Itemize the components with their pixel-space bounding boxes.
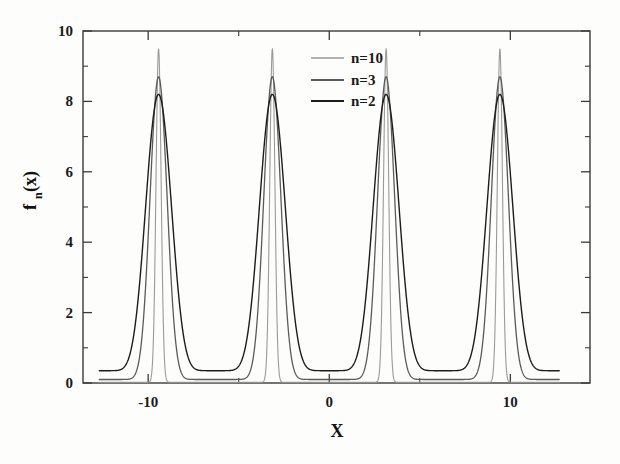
legend-label-n3: n=3 <box>351 72 375 88</box>
figure-container: -10010 0246810 X f n (x) n=10 n=3 n=2 <box>0 0 620 464</box>
y-tick-label: 6 <box>66 164 74 180</box>
y-axis-title-base: f <box>20 203 40 210</box>
y-axis-title-arg: (x) <box>20 171 41 192</box>
y-tick-label: 10 <box>58 23 73 39</box>
y-tick-label: 8 <box>66 93 74 109</box>
chart-canvas: -10010 0246810 X f n (x) n=10 n=3 n=2 <box>0 0 620 464</box>
y-axis-title-subscript: n <box>31 192 45 199</box>
y-tick-label: 4 <box>66 234 74 250</box>
chart-background <box>0 0 620 464</box>
y-tick-label: 0 <box>66 375 74 391</box>
x-tick-label: 10 <box>503 394 518 410</box>
x-tick-label: 0 <box>326 394 334 410</box>
legend-label-n10: n=10 <box>351 50 383 66</box>
legend-label-n2: n=2 <box>351 93 375 109</box>
x-axis-title: X <box>331 421 344 441</box>
y-tick-label: 2 <box>66 305 74 321</box>
x-tick-label: -10 <box>138 394 158 410</box>
